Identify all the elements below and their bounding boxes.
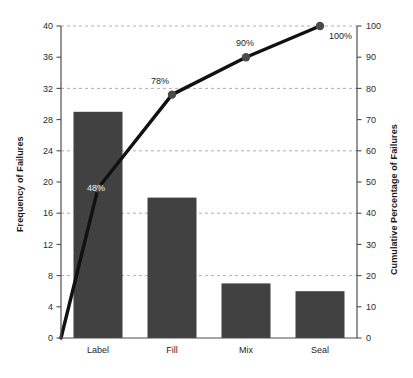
percentage-label: 78%: [151, 76, 169, 86]
data-point-marker: [316, 22, 324, 30]
left-tick-label: 4: [48, 302, 53, 312]
chart-background: [0, 0, 413, 378]
left-tick-label: 8: [48, 271, 53, 281]
left-tick-label: 40: [43, 21, 53, 31]
right-tick-label: 80: [366, 84, 376, 94]
right-tick-label: 40: [366, 208, 376, 218]
category-label: Label: [87, 345, 109, 355]
right-tick-label: 70: [366, 115, 376, 125]
pareto-chart: 0481216202428323640 01020304050607080901…: [0, 0, 413, 378]
chart-canvas: 0481216202428323640 01020304050607080901…: [0, 0, 413, 378]
left-tick-label: 32: [43, 84, 53, 94]
left-tick-label: 28: [43, 115, 53, 125]
left-tick-label: 36: [43, 52, 53, 62]
percentage-label: 100%: [329, 31, 352, 41]
right-tick-label: 100: [366, 21, 381, 31]
right-tick-label: 10: [366, 302, 376, 312]
left-tick-label: 0: [48, 333, 53, 343]
bar: [222, 283, 271, 338]
percentage-label: 48%: [87, 183, 105, 193]
category-label: Seal: [311, 345, 329, 355]
right-tick-label: 90: [366, 52, 376, 62]
left-tick-label: 20: [43, 177, 53, 187]
left-tick-label: 16: [43, 208, 53, 218]
right-axis-title: Cumulative Percentage of Failures: [389, 124, 399, 275]
data-point-marker: [242, 53, 250, 61]
right-tick-label: 20: [366, 271, 376, 281]
percentage-label: 90%: [236, 38, 254, 48]
right-tick-label: 0: [366, 333, 371, 343]
left-tick-label: 12: [43, 240, 53, 250]
bar: [148, 198, 197, 338]
left-tick-label: 24: [43, 146, 53, 156]
right-tick-label: 30: [366, 240, 376, 250]
category-label: Mix: [239, 345, 253, 355]
category-label: Fill: [166, 345, 178, 355]
right-tick-label: 50: [366, 177, 376, 187]
data-point-marker: [168, 90, 176, 98]
left-axis-title: Frequency of Failures: [15, 136, 25, 232]
bar: [296, 291, 345, 338]
bar: [74, 112, 123, 338]
right-tick-label: 60: [366, 146, 376, 156]
